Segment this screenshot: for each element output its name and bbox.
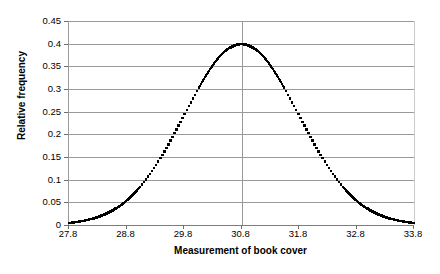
curve-point [326,164,328,166]
curve-point [301,121,303,123]
curve-point [299,117,301,119]
y-tick-mark [64,89,68,90]
curve-point [151,170,153,172]
curve-point [139,186,141,188]
y-tick-label: 0.4 [0,39,61,48]
curve-point [317,150,319,152]
y-tick-label: 0.25 [0,107,61,116]
curve-point [173,132,175,134]
y-tick-label: 0.05 [0,197,61,206]
x-axis-line [69,225,414,226]
curve-point [171,136,173,138]
curve-point [163,150,165,152]
x-tick-mark [183,225,184,229]
curve-point [305,128,307,130]
x-tick-mark [126,225,127,229]
curve-point [147,175,149,177]
y-tick-label: 0.2 [0,129,61,138]
curve-point [143,181,145,183]
curve-point [291,101,293,103]
curve-point [175,128,177,130]
curve-point [179,121,181,123]
curve-point [293,105,295,107]
curve-point [313,143,315,145]
curve-point [183,113,185,115]
curve-point [285,90,287,92]
curve-point [194,94,196,96]
curve-point [283,86,285,88]
curve-point [324,160,326,162]
y-tick-label: 0.3 [0,84,61,93]
curve-point [157,160,159,162]
y-tick-mark [64,44,68,45]
curve-point [177,124,179,126]
x-tick-label: 28.8 [96,228,156,239]
x-tick-mark [241,225,242,229]
y-tick-label: 0.35 [0,61,61,70]
curve-point [413,222,415,224]
normal-distribution-curve [69,21,414,225]
x-tick-label: 30.8 [211,228,271,239]
curve-point [196,90,198,92]
curve-point [167,143,169,145]
curve-point [192,97,194,99]
y-tick-mark [64,21,68,22]
y-tick-mark [64,112,68,113]
curve-point [188,105,190,107]
y-tick-label: 0.45 [0,16,61,25]
curve-point [186,109,188,111]
x-tick-label: 31.8 [268,228,328,239]
y-tick-mark [64,134,68,135]
x-tick-mark [298,225,299,229]
curve-point [190,101,192,103]
curve-point [295,109,297,111]
curve-point [303,124,305,126]
x-tick-label: 29.8 [153,228,213,239]
y-axis-title: Relative frequency [16,31,27,161]
curve-point [149,173,151,175]
curve-point [169,139,171,141]
chart-container: Relative frequency 00.050.10.150.20.250.… [0,0,440,274]
curve-point [153,167,155,169]
curve-point [319,154,321,156]
x-tick-mark [68,225,69,229]
curve-point [307,132,309,134]
x-tick-label: 33.8 [383,228,440,239]
x-tick-label: 32.8 [326,228,386,239]
y-tick-mark [64,66,68,67]
curve-point [155,164,157,166]
x-tick-mark [413,225,414,229]
y-tick-mark [64,157,68,158]
y-tick-label: 0.1 [0,175,61,184]
curve-point [181,117,183,119]
x-tick-mark [356,225,357,229]
curve-point [321,157,323,159]
y-tick-mark [64,180,68,181]
curve-point [309,136,311,138]
curve-point [165,147,167,149]
plot-area [68,21,415,225]
curve-point [161,154,163,156]
curve-point [315,147,317,149]
curve-point [289,97,291,99]
curve-point [287,94,289,96]
curve-point [311,139,313,141]
curve-point [145,178,147,180]
x-axis-title: Measurement of book cover [68,245,413,256]
y-tick-mark [64,202,68,203]
y-tick-label: 0.15 [0,152,61,161]
x-tick-label: 27.8 [38,228,98,239]
curve-point [297,113,299,115]
curve-point [159,157,161,159]
